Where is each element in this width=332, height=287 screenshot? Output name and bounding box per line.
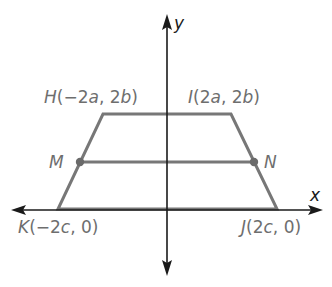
midpoint-m-dot: [76, 158, 84, 166]
midpoint-label-n: N: [264, 152, 277, 172]
y-axis: [162, 14, 172, 276]
x-axis-label: x: [309, 185, 321, 205]
y-axis-label: y: [173, 13, 185, 33]
vertex-label-k: K(−2c, 0): [18, 217, 99, 237]
vertex-label-h: H(−2a, 2b): [44, 87, 138, 107]
coordinate-plane-diagram: y x H(−2a, 2b) I(2a, 2b) K(−2c, 0) J(2c,…: [0, 0, 332, 287]
midpoint-label-m: M: [49, 152, 64, 172]
vertex-label-i: I(2a, 2b): [188, 87, 260, 107]
midpoint-n-dot: [250, 158, 258, 166]
vertex-label-j: J(2c, 0): [238, 217, 301, 237]
